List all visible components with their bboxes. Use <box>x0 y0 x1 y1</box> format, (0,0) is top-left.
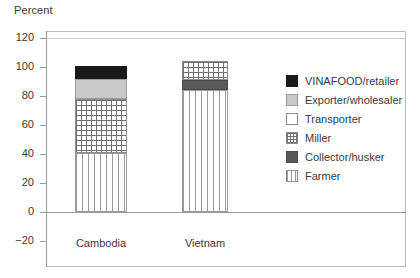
y-tick-label: 40 <box>0 148 34 159</box>
y-tick-label: 20 <box>0 177 34 188</box>
legend-label: Miller <box>305 132 331 144</box>
bar-segment-miller[interactable] <box>75 99 127 153</box>
y-tick-mark <box>40 241 47 242</box>
bar-segment-miller[interactable] <box>182 61 228 80</box>
legend-label: Collector/husker <box>305 151 384 163</box>
legend-swatch-exporter-icon <box>286 94 298 106</box>
bar-segment-vinafood[interactable] <box>75 66 127 79</box>
y-tick-mark <box>40 212 47 213</box>
chart-container: Percent 120100806040200−20 CambodiaVietn… <box>0 0 420 278</box>
bar-segment-farmer[interactable] <box>182 90 228 212</box>
y-tick-mark <box>40 38 47 39</box>
y-tick-label: −20 <box>0 235 34 246</box>
legend-swatch-farmer-icon <box>286 170 298 182</box>
legend-item-miller[interactable]: Miller <box>286 131 402 144</box>
legend-item-transporter[interactable]: Transporter <box>286 112 402 125</box>
y-tick-label: 80 <box>0 90 34 101</box>
bar-cambodia[interactable] <box>75 66 127 212</box>
legend-swatch-vinafood-icon <box>286 75 298 87</box>
bar-vietnam[interactable] <box>182 61 228 212</box>
bar-segment-farmer[interactable] <box>75 153 127 212</box>
y-tick-mark <box>40 96 47 97</box>
bar-segment-exporter[interactable] <box>75 79 127 99</box>
category-label-cambodia: Cambodia <box>61 237 141 249</box>
legend-label: Farmer <box>305 170 340 182</box>
legend-swatch-transporter-icon <box>286 113 298 125</box>
y-tick-label: 60 <box>0 119 34 130</box>
y-tick-mark <box>40 67 47 68</box>
legend-item-exporter[interactable]: Exporter/wholesaler <box>286 93 402 106</box>
legend-item-collector[interactable]: Collector/husker <box>286 150 402 163</box>
y-tick-label: 0 <box>0 206 34 217</box>
legend-swatch-miller-icon <box>286 132 298 144</box>
legend-item-vinafood[interactable]: VINAFOOD/retailer <box>286 74 402 87</box>
legend-label: Exporter/wholesaler <box>305 94 402 106</box>
zero-baseline <box>46 212 406 213</box>
legend-label: Transporter <box>305 113 361 125</box>
legend-swatch-collector-icon <box>286 151 298 163</box>
category-label-vietnam: Vietnam <box>170 237 240 249</box>
y-tick-mark <box>40 154 47 155</box>
legend-item-farmer[interactable]: Farmer <box>286 169 402 182</box>
legend: VINAFOOD/retailerExporter/wholesalerTran… <box>286 74 402 182</box>
y-tick-label: 120 <box>0 32 34 43</box>
bar-segment-collector[interactable] <box>182 80 228 90</box>
legend-label: VINAFOOD/retailer <box>305 75 399 87</box>
plot-top-gridline <box>46 38 406 39</box>
y-axis-title: Percent <box>14 4 53 16</box>
y-tick-label: 100 <box>0 61 34 72</box>
y-tick-mark <box>40 125 47 126</box>
y-tick-mark <box>40 183 47 184</box>
